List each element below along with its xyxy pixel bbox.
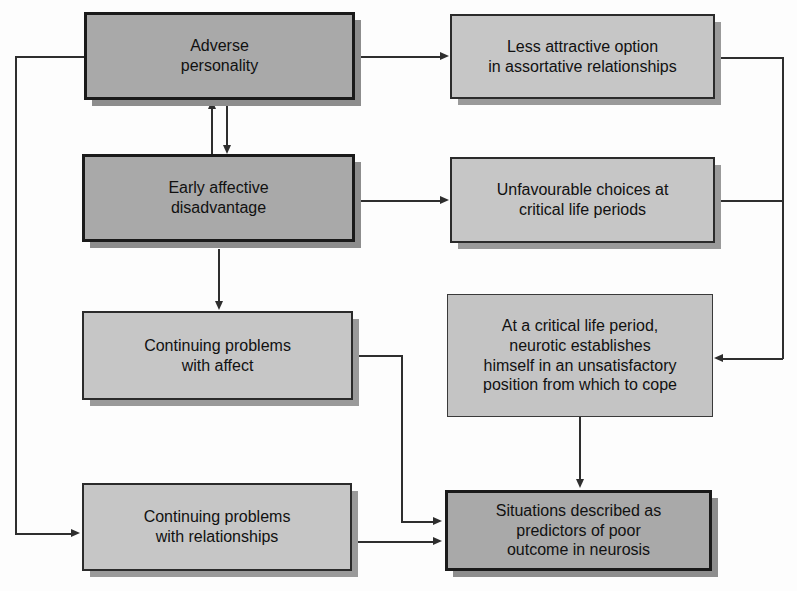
edge-affect-to-situations-h1 [353, 355, 403, 357]
edge-adverse-loop-side [15, 56, 17, 534]
edge-adverse-loop-bottom [15, 533, 73, 535]
node-early-affective-disadvantage[interactable]: Early affective disadvantage [82, 154, 355, 242]
node-critical-life-period[interactable]: At a critical life period, neurotic esta… [447, 294, 713, 417]
node-continuing-problems-relationships[interactable]: Continuing problems with relationships [82, 483, 352, 571]
edge-critical-to-situations-line [579, 417, 581, 480]
edge-affect-to-situations-arrow [433, 517, 442, 525]
node-label: Less attractive option in assortative re… [482, 37, 683, 76]
edge-right-rail-lower [782, 200, 784, 359]
edge-affect-to-situations-v [401, 355, 403, 522]
node-label: Continuing problems with relationships [138, 507, 297, 546]
edge-early-to-affect-line [218, 249, 220, 302]
node-label: Continuing problems with affect [138, 336, 297, 375]
edge-adverse-loop-arrow [71, 529, 80, 537]
node-label: Early affective disadvantage [162, 178, 274, 217]
edge-rail-to-critical-line [723, 358, 783, 360]
edge-early-to-unfavourable-line [355, 200, 441, 202]
node-label: Situations described as predictors of po… [490, 501, 667, 560]
edge-relationships-to-situations-arrow [433, 537, 442, 545]
node-label: At a critical life period, neurotic esta… [477, 316, 683, 394]
edge-early-to-adverse-arrow [208, 100, 216, 109]
edge-adverse-to-early-line [226, 100, 228, 146]
flowchart-canvas: Adverse personality Early affective disa… [0, 0, 797, 591]
edge-less-attractive-rail-top [715, 57, 784, 59]
edge-adverse-loop-top [15, 56, 85, 58]
edge-early-to-adverse-line [211, 108, 213, 154]
node-unfavourable-choices[interactable]: Unfavourable choices at critical life pe… [450, 157, 715, 243]
node-less-attractive-option[interactable]: Less attractive option in assortative re… [450, 14, 715, 99]
edge-rail-to-critical-arrow [714, 354, 723, 362]
node-continuing-problems-affect[interactable]: Continuing problems with affect [82, 311, 353, 400]
edge-relationships-to-situations-line [352, 541, 435, 543]
edge-critical-to-situations-arrow [576, 479, 584, 488]
edge-early-to-unfavourable-arrow [440, 196, 449, 204]
edge-adverse-to-less-attractive-arrow [440, 52, 449, 60]
edge-adverse-to-early-arrow [223, 145, 231, 154]
node-adverse-personality[interactable]: Adverse personality [84, 12, 355, 100]
edge-right-rail-upper [782, 57, 784, 201]
node-label: Unfavourable choices at critical life pe… [491, 180, 675, 219]
edge-early-to-affect-arrow [215, 301, 223, 310]
edge-unfavourable-rail [715, 200, 784, 202]
node-label: Adverse personality [175, 36, 264, 75]
node-situations-described[interactable]: Situations described as predictors of po… [445, 490, 712, 571]
edge-affect-to-situations-h2 [401, 521, 435, 523]
edge-adverse-to-less-attractive-line [355, 56, 441, 58]
